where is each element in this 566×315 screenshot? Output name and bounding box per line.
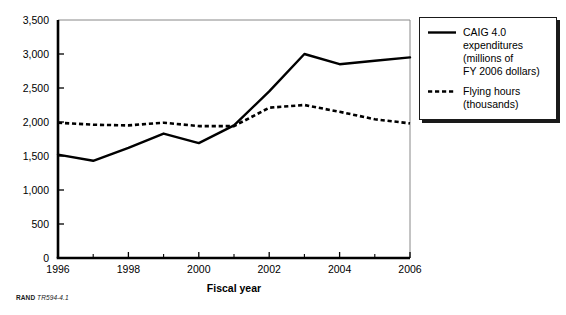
legend-swatch-solid-line-icon xyxy=(428,27,456,38)
legend-item-caig-expenditures: CAIG 4.0 expenditures (millions of FY 20… xyxy=(428,26,549,78)
x-axis-title: Fiscal year xyxy=(207,282,261,294)
source-caption-id: TR594-4.1 xyxy=(37,294,69,301)
y-tick-label: 2,500 xyxy=(23,82,49,94)
legend-item-flying-hours: Flying hours (thousands) xyxy=(428,85,549,111)
legend-swatch-dashed-line-icon xyxy=(428,86,456,97)
legend-label-flying-hours: Flying hours (thousands) xyxy=(463,85,520,111)
y-tick-label: 3,000 xyxy=(23,48,49,60)
x-tick-label: 1996 xyxy=(46,263,70,275)
x-tick-label: 2004 xyxy=(328,263,352,275)
y-tick-label: 3,500 xyxy=(23,14,49,26)
x-tick-label: 2006 xyxy=(398,263,422,275)
source-caption-prefix: RAND xyxy=(16,294,35,301)
y-tick-label: 500 xyxy=(31,218,49,230)
series-line xyxy=(58,105,410,126)
y-tick-label: 1,000 xyxy=(23,184,49,196)
y-tick-label: 0 xyxy=(43,252,49,264)
x-tick-label: 2000 xyxy=(187,263,211,275)
chart-legend: CAIG 4.0 expenditures (millions of FY 20… xyxy=(419,17,557,120)
y-tick-label: 2,000 xyxy=(23,116,49,128)
x-tick-label: 2002 xyxy=(258,263,282,275)
y-tick-label: 1,500 xyxy=(23,150,49,162)
x-tick-label: 1998 xyxy=(117,263,141,275)
source-caption: RAND TR594-4.1 xyxy=(16,294,69,301)
legend-label-caig-expenditures: CAIG 4.0 expenditures (millions of FY 20… xyxy=(463,26,540,78)
series-line xyxy=(58,54,410,161)
figure-container: 05001,0001,5002,0002,5003,0003,500199619… xyxy=(0,0,566,315)
